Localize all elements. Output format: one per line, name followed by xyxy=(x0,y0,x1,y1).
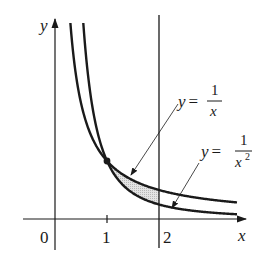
label-reciprocal-numerator: 1 xyxy=(211,82,219,98)
leader-arrow-reciprocal-squared xyxy=(172,163,199,208)
x-tick-label-2: 2 xyxy=(163,228,172,247)
label-reciprocal-squared-lhs: y= xyxy=(199,142,221,161)
label-reciprocal: y= 1 x xyxy=(176,82,222,119)
y-axis-label: y xyxy=(38,16,48,35)
label-reciprocal-denominator: x xyxy=(209,103,217,119)
area-between-curves-diagram: y x 0 1 2 y= 1 x y= 1 x 2 xyxy=(0,0,272,272)
label-reciprocal-squared: y= 1 x 2 xyxy=(199,132,252,170)
label-reciprocal-squared-exponent: 2 xyxy=(245,151,250,162)
leader-arrow-reciprocal xyxy=(131,104,178,175)
x-tick-label-1: 1 xyxy=(102,228,111,247)
intersection-point xyxy=(104,158,111,165)
origin-label: 0 xyxy=(40,228,49,247)
label-reciprocal-squared-numerator: 1 xyxy=(240,132,248,148)
label-reciprocal-lhs: y= xyxy=(176,92,198,111)
label-reciprocal-squared-denominator: x xyxy=(234,154,242,170)
x-axis-label: x xyxy=(237,226,246,245)
